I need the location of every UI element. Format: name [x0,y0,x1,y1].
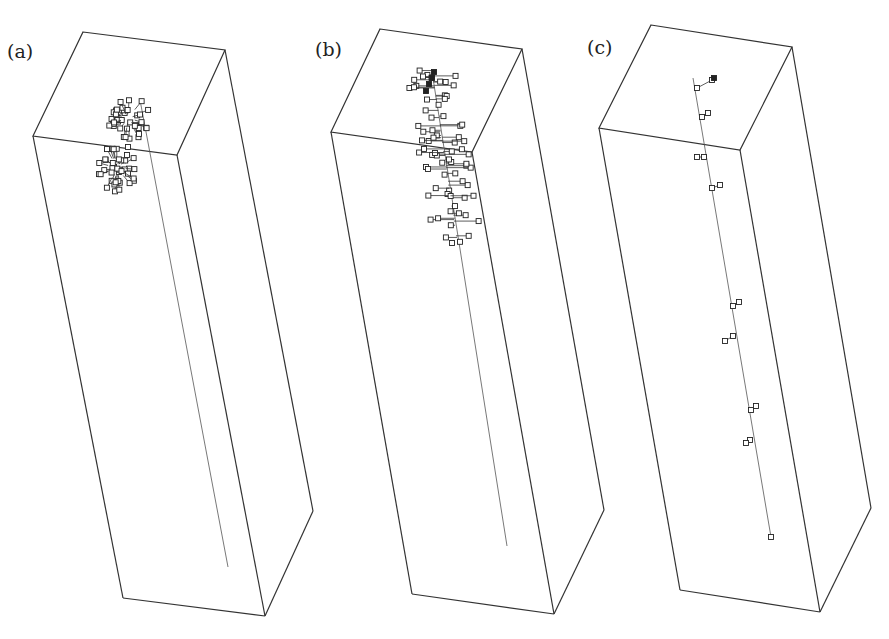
node-square [105,147,110,152]
node-square [443,235,448,240]
node-square [448,209,453,214]
node-square [453,204,458,209]
node-square [712,76,717,81]
node-square [430,76,435,81]
node-square [118,99,123,104]
node-square [441,114,446,119]
node-square [139,120,144,125]
node-square [450,241,455,246]
node-square [114,107,119,112]
node-square [448,223,453,228]
node-square [137,131,142,136]
box-c [599,25,871,612]
node-square [132,123,137,128]
node-square [113,112,118,117]
node-square [123,135,128,140]
node-square [466,233,471,238]
node-square [118,126,123,131]
node-square [429,115,434,120]
boxes [33,25,871,616]
node-square [432,70,437,75]
node-square [433,186,438,191]
node-square [131,156,136,161]
node-square [731,334,736,339]
node-square [432,150,437,155]
node-square [438,79,443,84]
node-square [126,145,131,150]
node-square [465,183,470,188]
node-square [428,217,433,222]
node-square [442,96,447,101]
node-square [132,167,137,172]
node-square [144,126,149,131]
node-square [695,86,700,91]
node-square [453,73,458,78]
node-square [458,239,463,244]
node-square [416,123,421,128]
node-square [424,89,429,94]
node-square [426,138,431,143]
node-square [462,139,467,144]
node-square [436,216,441,221]
node-square [103,157,108,162]
node-square [737,300,742,305]
node-square [459,147,464,152]
node-square [442,172,447,177]
node-square [97,160,102,165]
node-square [695,155,700,160]
node-square [131,176,136,181]
node-square [420,138,425,143]
box-a [33,32,313,616]
node-square [139,99,144,104]
node-square [702,155,707,160]
node-square [769,535,774,540]
node-square [117,187,122,192]
node-square [443,80,448,85]
node-square [411,85,416,90]
node-square [427,82,432,87]
node-square [425,97,430,102]
node-square [754,404,759,409]
node-square [119,118,124,123]
node-square [456,211,461,216]
node-square [125,108,130,113]
backbone-b [432,72,507,546]
node-square [107,123,112,128]
node-square [430,128,435,133]
node-square [718,183,723,188]
node-square [700,115,705,120]
node-square [440,160,445,165]
node-square [98,172,103,177]
node-square [744,441,749,446]
backbone-a [140,100,228,567]
node-square [476,219,481,224]
node-square [731,304,736,309]
node-square [431,135,436,140]
node-square [125,126,130,131]
node-square [138,112,143,117]
node-square [104,185,109,190]
node-square [723,339,728,344]
node-square [451,83,456,88]
node-square [125,153,130,158]
figure-canvas [0,0,889,639]
node-square [421,129,426,134]
node-square [460,122,465,127]
node-square [417,150,422,155]
node-square [460,179,465,184]
node-square [421,146,426,151]
node-square [447,157,452,162]
box-b [331,29,604,614]
node-square [146,107,151,112]
node-square [126,98,131,103]
node-square [110,161,115,166]
node-square [464,161,469,166]
node-square [112,120,117,125]
polymer-nodes [97,68,774,539]
node-square [113,180,118,185]
node-square [426,193,431,198]
node-square [412,77,417,82]
node-square [749,408,754,413]
node-square [466,152,471,157]
node-square [116,157,121,162]
